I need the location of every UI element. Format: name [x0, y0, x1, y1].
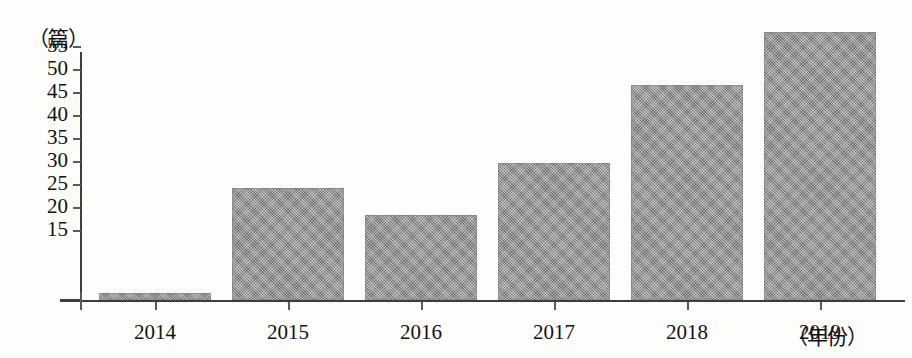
x-axis-unit-label: （年份）	[787, 320, 867, 350]
x-axis-tick	[288, 302, 290, 310]
x-axis-tick-label: 2017	[494, 320, 614, 344]
x-axis-tick	[155, 302, 157, 310]
x-axis-tick	[554, 302, 556, 310]
x-axis-tick	[421, 302, 423, 310]
x-axis-tick-label: 2015	[228, 320, 348, 344]
bar-chart: （篇） 152025303540455055 20142015201620172…	[0, 0, 912, 358]
x-axis-tick-label: 2016	[361, 320, 481, 344]
x-axis-tick-label: 2018	[627, 320, 747, 344]
x-axis-ticks: 201420152016201720182019	[0, 0, 912, 358]
x-axis-tick	[820, 302, 822, 310]
x-axis-tick	[687, 302, 689, 310]
x-axis-tick-label: 2014	[95, 320, 215, 344]
